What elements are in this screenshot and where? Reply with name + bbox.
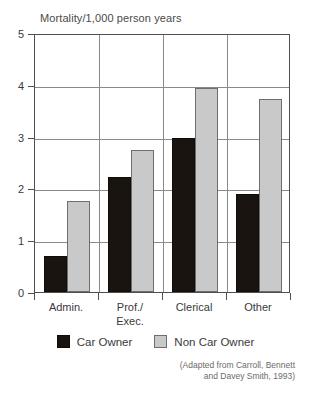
bar-non-car-owner-admin xyxy=(67,201,90,292)
plot-area xyxy=(35,35,289,292)
y-axis-tick-label: 5 xyxy=(2,28,24,40)
black-square-swatch xyxy=(57,335,70,348)
y-tick-3 xyxy=(28,138,34,139)
gray-square-swatch xyxy=(154,335,167,348)
bar-car-owner-profexec xyxy=(108,177,131,292)
chart-title: Mortality/1,000 person years xyxy=(40,12,182,24)
bar-car-owner-clerical xyxy=(172,138,195,292)
category-separator xyxy=(99,35,100,292)
x-tick xyxy=(290,293,291,300)
plot-frame xyxy=(34,34,290,293)
gridline-y-3 xyxy=(35,139,289,140)
legend-label: Non Car Owner xyxy=(174,336,254,348)
category-label: Admin. xyxy=(34,300,98,314)
x-tick xyxy=(226,293,227,300)
chart-legend: Car OwnerNon Car Owner xyxy=(0,335,311,348)
y-axis-tick-label: 2 xyxy=(2,183,24,195)
y-tick-4 xyxy=(28,86,34,87)
legend-label: Car Owner xyxy=(77,336,133,348)
source-attribution: (Adapted from Carroll, Bennett and Davey… xyxy=(105,360,295,382)
category-label: Prof./ Exec. xyxy=(98,300,162,328)
bar-car-owner-other xyxy=(236,194,259,292)
source-line-2: and Davey Smith, 1993) xyxy=(105,371,295,382)
legend-item-car-owner: Car Owner xyxy=(57,335,133,348)
category-label: Clerical xyxy=(162,300,226,314)
legend-item-non-car-owner: Non Car Owner xyxy=(154,335,254,348)
source-line-1: (Adapted from Carroll, Bennett xyxy=(105,360,295,371)
bar-non-car-owner-clerical xyxy=(195,88,218,292)
y-axis-tick-label: 1 xyxy=(2,235,24,247)
y-axis-tick-label: 0 xyxy=(2,287,24,299)
bar-car-owner-admin xyxy=(44,256,67,292)
x-axis-category-labels: Admin.Prof./ Exec.ClericalOther xyxy=(34,300,290,334)
y-tick-2 xyxy=(28,189,34,190)
y-axis-tick-label: 4 xyxy=(2,80,24,92)
category-separator xyxy=(227,35,228,292)
y-tick-1 xyxy=(28,241,34,242)
y-axis-tick-label: 3 xyxy=(2,132,24,144)
x-tick xyxy=(98,293,99,300)
category-separator xyxy=(163,35,164,292)
x-tick xyxy=(162,293,163,300)
y-tick-5 xyxy=(28,34,34,35)
bar-non-car-owner-other xyxy=(259,99,282,292)
bar-chart-figure: Mortality/1,000 person years 012345 Admi… xyxy=(0,0,311,402)
x-tick xyxy=(34,293,35,300)
gridline-y-2 xyxy=(35,190,289,191)
gridline-y-4 xyxy=(35,87,289,88)
bar-non-car-owner-profexec xyxy=(131,150,154,292)
category-label: Other xyxy=(226,300,290,314)
